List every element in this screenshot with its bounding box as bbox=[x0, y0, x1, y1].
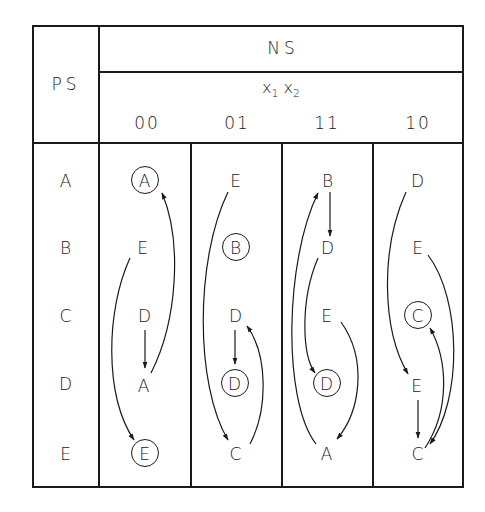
arrow-10-b-to-e bbox=[428, 255, 454, 444]
transition-arrows bbox=[0, 0, 485, 512]
arrow-01-a-to-e bbox=[203, 192, 228, 440]
arrow-11-c-to-e bbox=[337, 322, 358, 439]
arrow-00-b-to-e bbox=[112, 258, 134, 440]
arrow-00-d-to-a bbox=[151, 193, 175, 373]
flow-table-diagram: PS NS x1 x2 00 01 11 10 A B C D E A E D … bbox=[0, 0, 485, 512]
arrow-10-e-to-c bbox=[425, 328, 444, 448]
arrow-10-a-to-d bbox=[387, 192, 408, 374]
arrow-01-e-to-c bbox=[247, 326, 263, 444]
arrow-11-b-to-d bbox=[305, 258, 318, 373]
